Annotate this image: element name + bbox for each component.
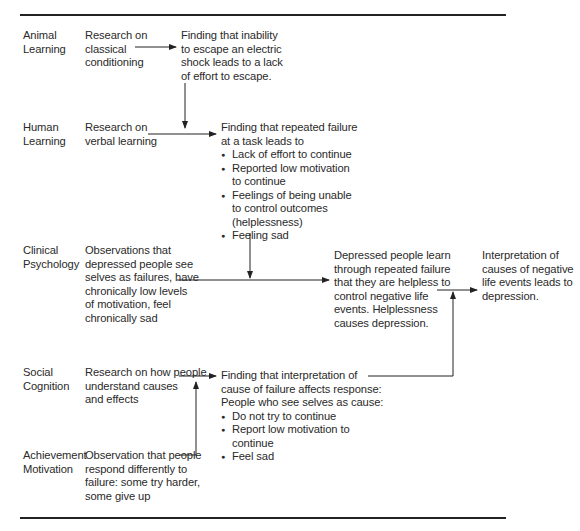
- bullet-item: Do not try to continue: [221, 410, 383, 424]
- bullet-item: Report low motivation tocontinue: [221, 423, 383, 450]
- finding-social-bullets: Do not try to continue Report low motiva…: [221, 410, 383, 464]
- bottom-rule: [20, 517, 506, 519]
- bullet-item: Lack of effort to continue: [221, 148, 357, 162]
- finding-animal: Finding that inability to escape an elec…: [181, 29, 283, 83]
- domain-human-learning: Human Learning: [23, 121, 66, 148]
- source-causal-understanding: Research on how people understand causes…: [85, 366, 207, 407]
- finding-social: Finding that interpretation of cause of …: [221, 369, 383, 464]
- domain-social-cognition: Social Cognition: [23, 366, 69, 393]
- conclusion-interpretation: Interpretation of causes of negative lif…: [482, 249, 574, 303]
- top-rule: [20, 14, 506, 16]
- bullet-item: Feel sad: [221, 450, 383, 464]
- source-failure-response: Observation that people respond differen…: [85, 449, 202, 503]
- source-verbal-learning: Research on verbal learning: [85, 121, 157, 148]
- finding-human-bullets: Lack of effort to continue Reported low …: [221, 148, 357, 243]
- bullet-item: Reported low motivationto continue: [221, 162, 357, 189]
- finding-human: Finding that repeated failure at a task …: [221, 121, 357, 243]
- synthesis-helplessness: Depressed people learn through repeated …: [334, 249, 451, 330]
- domain-clinical-psychology: Clinical Psychology: [23, 244, 79, 271]
- bullet-item: Feelings of being unableto control outco…: [221, 189, 357, 230]
- source-clinical-observations: Observations that depressed people see s…: [85, 244, 199, 325]
- domain-animal-learning: Animal Learning: [23, 29, 66, 56]
- bullet-item: Feeling sad: [221, 229, 357, 243]
- source-classical-conditioning: Research on classical conditioning: [85, 29, 147, 70]
- domain-achievement-motivation: Achievement Motivation: [23, 449, 87, 476]
